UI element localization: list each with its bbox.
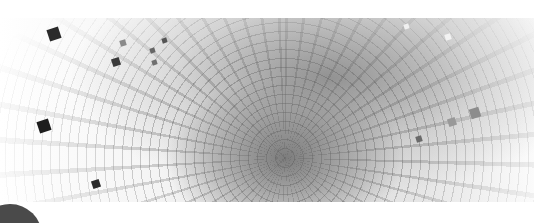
warped-grid-pattern bbox=[0, 18, 534, 202]
abstract-banner bbox=[0, 18, 534, 202]
dark-circle-shape bbox=[0, 204, 42, 223]
